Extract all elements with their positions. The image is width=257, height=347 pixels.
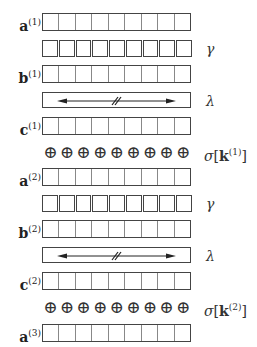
- lambda-row: λ: [0, 92, 257, 110]
- vector-cell: [43, 273, 59, 289]
- vector-box: [42, 65, 191, 83]
- vector-cell: [158, 273, 174, 289]
- vector-cell: [59, 66, 75, 82]
- square-cell: [76, 40, 92, 57]
- vector-label-superscript: (2): [28, 276, 41, 286]
- vector-cell: [43, 66, 59, 82]
- vector-box: [42, 168, 191, 186]
- vector-label: c(1): [20, 117, 41, 139]
- vector-cell: [125, 169, 141, 185]
- oplus-icon: ⊕: [142, 143, 159, 161]
- oplus-icon: ⊕: [158, 143, 175, 161]
- vector-row-b2: b(2): [0, 220, 257, 238]
- vector-label: c(2): [20, 272, 41, 294]
- vector-cell: [43, 325, 59, 341]
- vector-cell: [76, 14, 92, 30]
- square-cell: [159, 40, 175, 57]
- vector-label-base: a: [19, 329, 28, 345]
- square-cell: [126, 195, 142, 212]
- vector-cell: [43, 221, 59, 237]
- vector-cell: [125, 325, 141, 341]
- square-cell: [176, 195, 192, 212]
- vector-cell: [59, 118, 75, 134]
- oplus-icon: ⊕: [158, 298, 175, 316]
- oplus-icon: ⊕: [59, 298, 76, 316]
- sigma-k-label: σ[k(2)]: [204, 298, 247, 320]
- vector-box: [42, 117, 191, 135]
- oplus-icon: ⊕: [175, 298, 192, 316]
- vector-label-base: a: [19, 173, 28, 189]
- oplus-icon: ⊕: [108, 298, 125, 316]
- vector-label-base: a: [19, 18, 28, 34]
- oplus-icon: ⊕: [42, 143, 59, 161]
- gamma-label: γ: [206, 40, 214, 58]
- vector-cell: [158, 169, 174, 185]
- lambda-label: λ: [206, 92, 215, 110]
- vector-cell: [109, 325, 125, 341]
- sigma-symbol: σ: [204, 303, 214, 319]
- vector-cell: [142, 66, 158, 82]
- vector-cell: [142, 325, 158, 341]
- vector-box: [42, 13, 191, 31]
- square-cell: [92, 195, 108, 212]
- vector-cell: [43, 169, 59, 185]
- k-superscript: (1): [229, 147, 242, 157]
- vector-cell: [125, 118, 141, 134]
- vector-row-b1: b(1): [0, 65, 257, 83]
- vector-cell: [125, 273, 141, 289]
- vector-cell: [76, 273, 92, 289]
- vector-cell: [59, 221, 75, 237]
- square-cell: [76, 195, 92, 212]
- vector-cell: [92, 66, 108, 82]
- sigma-k-label: σ[k(1)]: [204, 143, 247, 165]
- vector-cell: [158, 118, 174, 134]
- vector-cell: [92, 169, 108, 185]
- oplus-icon: ⊕: [75, 143, 92, 161]
- vector-cell: [142, 221, 158, 237]
- vector-cell: [175, 221, 190, 237]
- vector-box: [42, 272, 191, 290]
- double-arrow-icon: [43, 249, 190, 263]
- vector-cell: [76, 66, 92, 82]
- vector-cell: [175, 14, 190, 30]
- vector-label-superscript: (1): [28, 121, 41, 131]
- k-symbol: k: [219, 303, 229, 319]
- vector-cell: [109, 118, 125, 134]
- vector-cell: [158, 325, 174, 341]
- vector-cell: [142, 169, 158, 185]
- vector-cell: [109, 14, 125, 30]
- close-bracket: ]: [241, 148, 246, 164]
- sigma-k-row: ⊕⊕⊕⊕⊕⊕⊕⊕⊕σ[k(1)]: [0, 143, 257, 161]
- vector-cell: [92, 14, 108, 30]
- square-cell: [42, 40, 58, 57]
- vector-cell: [175, 66, 190, 82]
- vector-label: b(2): [18, 220, 41, 242]
- k-superscript: (2): [229, 302, 242, 312]
- oplus-icon: ⊕: [125, 143, 142, 161]
- vector-cell: [175, 325, 190, 341]
- vector-row-a1: a(1): [0, 13, 257, 31]
- oplus-icon: ⊕: [92, 298, 109, 316]
- vector-cell: [43, 14, 59, 30]
- square-cell: [92, 40, 108, 57]
- vector-cell: [76, 169, 92, 185]
- vector-cell: [125, 14, 141, 30]
- lambda-box: [42, 247, 191, 263]
- vector-label-base: c: [20, 277, 29, 293]
- lambda-label: λ: [206, 247, 215, 265]
- vector-label-superscript: (1): [28, 17, 41, 27]
- square-cell: [143, 195, 159, 212]
- vector-cell: [92, 325, 108, 341]
- oplus-elementwise-row: ⊕⊕⊕⊕⊕⊕⊕⊕⊕: [42, 143, 192, 161]
- vector-cell: [59, 325, 75, 341]
- vector-cell: [142, 118, 158, 134]
- oplus-icon: ⊕: [142, 298, 159, 316]
- oplus-icon: ⊕: [42, 298, 59, 316]
- square-cell: [159, 195, 175, 212]
- vector-label: a(1): [19, 13, 41, 35]
- vector-label-superscript: (3): [28, 328, 41, 338]
- vector-label-base: c: [20, 122, 29, 138]
- vector-cell: [59, 169, 75, 185]
- vector-cell: [76, 118, 92, 134]
- vector-label-superscript: (2): [28, 224, 41, 234]
